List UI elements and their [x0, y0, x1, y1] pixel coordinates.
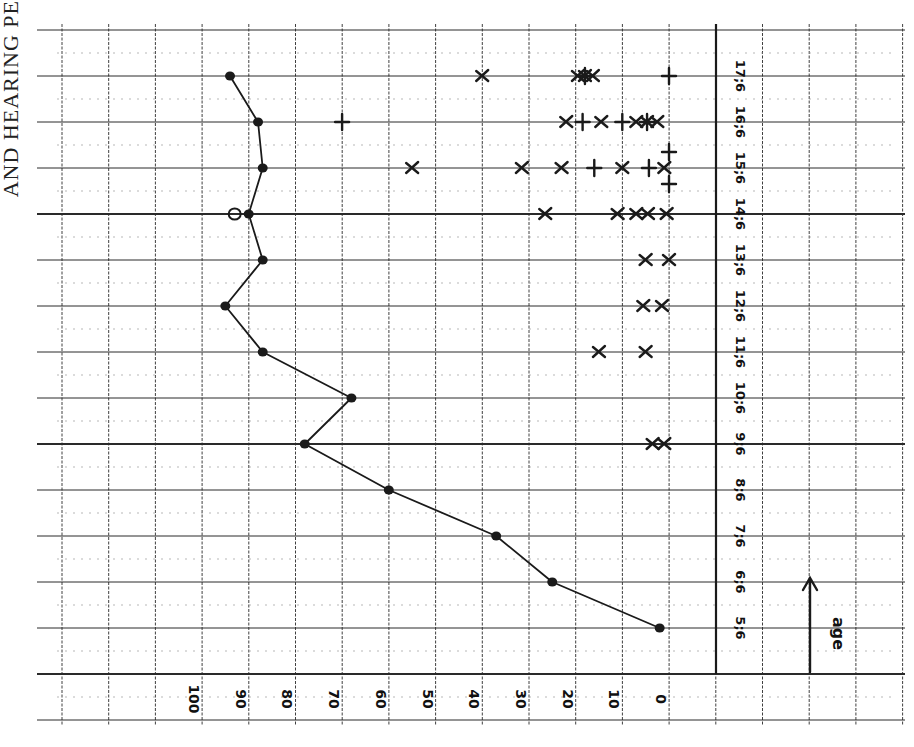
plus-mark — [662, 68, 676, 84]
age-tick-label: 13;6 — [732, 238, 748, 282]
age-tick-label: 17;6 — [732, 54, 748, 98]
value-tick-label: 20 — [559, 679, 577, 719]
data-point-dot — [258, 164, 268, 173]
age-tick-label: 11;6 — [732, 330, 748, 374]
data-point-dot — [253, 118, 263, 127]
age-tick-label: 14;6 — [732, 192, 748, 236]
data-point-dot — [491, 532, 501, 541]
data-point-dot — [300, 440, 310, 449]
value-tick-label: 80 — [278, 679, 296, 719]
age-tick-label: 5;6 — [732, 606, 748, 650]
age-axis-label: age — [829, 617, 848, 650]
data-point-dot — [384, 486, 394, 495]
plus-mark — [615, 114, 629, 130]
data-point-dot — [547, 578, 557, 587]
data-point-dot — [346, 394, 356, 403]
plus-mark — [662, 144, 676, 160]
age-tick-label: 15;6 — [732, 146, 748, 190]
value-tick-label: 10 — [605, 679, 623, 719]
data-point-dot — [258, 256, 268, 265]
value-tick-label: 30 — [512, 679, 530, 719]
age-tick-label: 6;6 — [732, 560, 748, 604]
data-point-dot — [258, 348, 268, 357]
plus-mark — [576, 114, 590, 130]
value-tick-label: 40 — [465, 679, 483, 719]
chart-stage: AND HEARING PE 1009080706050403020100 5;… — [0, 0, 914, 747]
age-arrow-icon — [803, 578, 817, 672]
age-tick-label: 10;6 — [732, 376, 748, 420]
arrow-up-icon — [803, 578, 817, 672]
plus-mark — [587, 160, 601, 176]
value-tick-label: 0 — [652, 679, 670, 719]
age-tick-label: 9;6 — [732, 422, 748, 466]
plus-mark — [335, 114, 349, 130]
grid — [37, 24, 905, 726]
data-point-dot — [220, 302, 230, 311]
scatter-marks — [335, 68, 676, 449]
data-point-dot — [225, 72, 235, 81]
plus-mark — [662, 176, 676, 192]
value-tick-label: 100 — [185, 679, 203, 719]
data-point-dot — [244, 210, 254, 219]
value-tick-label: 70 — [325, 679, 343, 719]
value-tick-label: 90 — [232, 679, 250, 719]
plus-mark — [642, 160, 656, 176]
hand-drawn-line-chart — [0, 0, 914, 747]
age-tick-label: 16;6 — [732, 100, 748, 144]
age-tick-label: 12;6 — [732, 284, 748, 328]
value-tick-label: 50 — [419, 679, 437, 719]
age-tick-label: 8;6 — [732, 468, 748, 512]
value-tick-label: 60 — [372, 679, 390, 719]
age-tick-label: 7;6 — [732, 514, 748, 558]
data-point-dot — [655, 624, 665, 633]
